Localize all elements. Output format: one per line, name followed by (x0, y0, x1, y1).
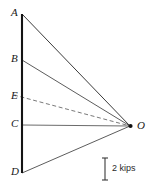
vertex-label-e: E (11, 90, 18, 101)
vertex-label-b: B (11, 53, 18, 64)
scale-bar-caption: 2 kips (112, 164, 136, 173)
pole-label-o: O (137, 120, 145, 131)
ray-e-to-o-dashed (14, 95, 130, 126)
vertex-label-d: D (11, 166, 19, 177)
ray-c-to-o (22, 125, 130, 126)
diagram-canvas (0, 0, 152, 190)
vertex-label-a: A (11, 7, 18, 18)
force-polygon-figure: A B E C D O 2 kips (0, 0, 152, 190)
pole-point-o (128, 124, 132, 128)
vertex-label-c: C (11, 118, 18, 129)
